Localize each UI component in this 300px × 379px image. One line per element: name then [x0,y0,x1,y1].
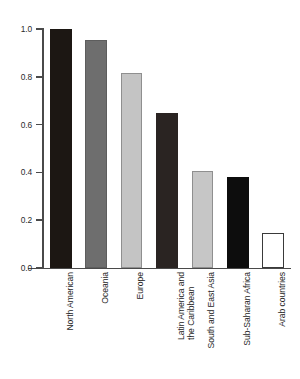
category-label-2: Europe [136,272,146,299]
y-axis-tick-0 [36,267,43,269]
category-label-2-line-0: Europe [135,272,145,299]
category-label-4: South and East Asia [207,272,217,348]
category-label-1-line-0: Oceania [100,272,110,304]
bar-chart-figure: 0.00.20.40.60.81.0 North AmericanOceania… [0,0,300,379]
category-label-3: Latin America andthe Caribbean [177,272,196,340]
y-axis-tick-2 [36,172,43,174]
y-axis-tick-label-4: 0.8 [0,72,32,82]
category-label-3-line-1: the Caribbean [186,272,196,340]
y-axis-tick-label-5: 1.0 [0,24,32,34]
category-label-0-line-0: North American [65,272,75,331]
category-label-6: Arab countries [278,272,288,327]
x-axis-category-labels: North AmericanOceaniaEuropeLatin America… [43,272,291,376]
plot-area [43,29,291,268]
category-label-5: Sub-Saharan Africa [243,272,253,346]
bar-4 [192,171,214,268]
bar-2 [121,73,143,268]
bar-0 [50,29,72,268]
y-axis-tick-label-2: 0.4 [0,167,32,177]
bar-5 [227,177,249,268]
category-label-1: Oceania [101,272,111,304]
category-label-4-line-0: South and East Asia [206,272,216,348]
category-label-0: North American [66,272,76,331]
y-axis-tick-label-1: 0.2 [0,215,32,225]
bar-1 [85,40,107,268]
bar-6 [262,233,284,268]
y-axis-tick-4 [36,76,43,78]
category-label-6-line-0: Arab countries [277,272,287,327]
y-axis-tick-5 [36,28,43,30]
category-label-5-line-0: Sub-Saharan Africa [242,272,252,346]
y-axis-tick-3 [36,124,43,126]
bar-3 [156,113,178,268]
category-label-3-line-0: Latin America and [176,272,186,340]
y-axis-tick-1 [36,219,43,221]
y-axis-tick-label-3: 0.6 [0,120,32,130]
y-axis-tick-label-0: 0.0 [0,263,32,273]
